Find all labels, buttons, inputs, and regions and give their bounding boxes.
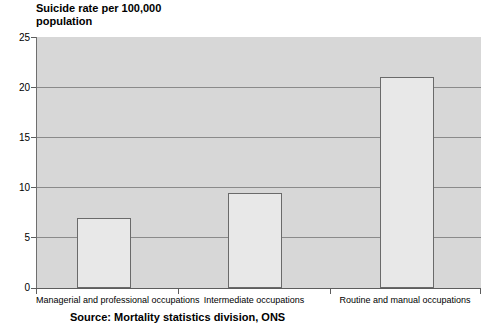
- y-tick-label-20: 20: [0, 83, 30, 93]
- x-axis-line: [36, 288, 481, 289]
- chart-title: Suicide rate per 100,000 population: [36, 2, 296, 28]
- x-tick-mark-end: [480, 289, 481, 294]
- suicide-rate-bar-chart: Suicide rate per 100,000 population 25 2…: [0, 0, 494, 334]
- bar-intermediate-occupations: [228, 193, 282, 288]
- y-tick-label-0: 0: [0, 283, 30, 293]
- y-tick-label-25: 25: [0, 33, 30, 43]
- y-tick-label-10: 10: [0, 183, 30, 193]
- plot-area: [36, 37, 481, 288]
- bar-routine-and-manual-occupations: [380, 77, 434, 288]
- chart-title-line-2: population: [36, 15, 296, 28]
- x-tick-mark-start: [36, 289, 37, 294]
- x-tick-mark-1: [178, 289, 179, 294]
- x-category-label-managerial-and-professional-occupations: Managerial and professional occupations: [36, 295, 178, 306]
- y-tick-label-5: 5: [0, 233, 30, 243]
- x-category-label-routine-and-manual-occupations: Routine and manual occupations: [330, 295, 480, 306]
- y-tick-label-15: 15: [0, 133, 30, 143]
- bar-managerial-and-professional-occupations: [77, 218, 131, 288]
- x-tick-mark-2: [330, 289, 331, 294]
- x-category-label-intermediate-occupations: Intermediate occupations: [178, 295, 330, 306]
- source-note: Source: Mortality statistics division, O…: [70, 311, 285, 324]
- chart-title-line-1: Suicide rate per 100,000: [36, 2, 296, 15]
